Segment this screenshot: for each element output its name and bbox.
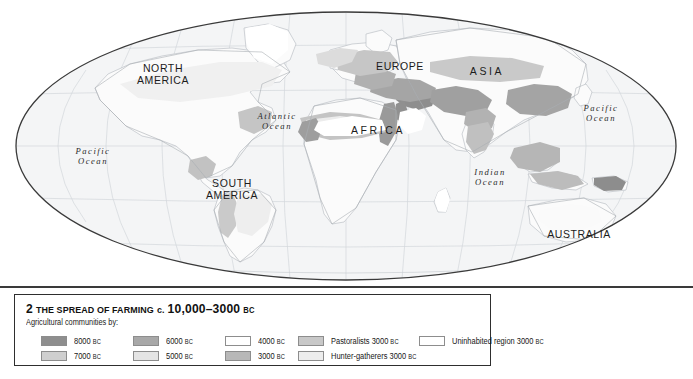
legend-hunter-gatherers[interactable]: Hunter-gatherers 3000 BC	[298, 350, 426, 361]
legend-title-text: THE SPREAD OF FARMING	[36, 304, 154, 315]
legend-label-7000bc: 7000 BC	[74, 351, 101, 361]
legend-label-uninhabited: Uninhabited region 3000 BC	[452, 336, 544, 346]
legend-subtitle: Agricultural communities by:	[26, 318, 118, 327]
legend-label-6000bc: 6000 BC	[166, 336, 193, 346]
legend-6000bc[interactable]: 6000 BC	[133, 335, 196, 346]
legend-3000bc[interactable]: 3000 BC	[225, 350, 288, 361]
legend-label-4000bc: 4000 BC	[258, 336, 285, 346]
legend-label-8000bc: 8000 BC	[74, 336, 101, 346]
legend-swatch-5000bc	[133, 351, 159, 361]
legend-label-5000bc: 5000 BC	[166, 351, 193, 361]
legend-label-3000bc: 3000 BC	[258, 351, 285, 361]
land-new-zealand	[634, 228, 650, 246]
legend-swatch-uninhabited	[419, 336, 445, 346]
legend-label-hunter-gatherers: Hunter-gatherers 3000 BC	[331, 351, 417, 361]
legend-label-pastoralists: Pastoralists 3000 BC	[331, 336, 399, 346]
map-page: NORTH AMERICA SOUTH AMERICA EUROPE AFRIC…	[0, 0, 693, 379]
legend-swatch-7000bc	[41, 351, 67, 361]
legend-swatch-8000bc	[41, 336, 67, 346]
map-graphic	[0, 0, 693, 290]
map-bottom-rule	[0, 286, 693, 288]
legend-7000bc[interactable]: 7000 BC	[41, 350, 104, 361]
legend-swatch-pastoralists	[298, 336, 324, 346]
legend-uninhabited[interactable]: Uninhabited region 3000 BC	[419, 335, 554, 346]
legend-title-range: 10,000–3000	[168, 301, 241, 316]
legend-swatch-hunter-gatherers	[298, 351, 324, 361]
legend-title: 2 THE SPREAD OF FARMING c. 10,000–3000 B…	[26, 301, 255, 316]
legend-pastoralists[interactable]: Pastoralists 3000 BC	[298, 335, 406, 346]
legend-8000bc[interactable]: 8000 BC	[41, 335, 104, 346]
legend-5000bc[interactable]: 5000 BC	[133, 350, 196, 361]
legend-swatch-4000bc	[225, 336, 251, 346]
legend-swatch-3000bc	[225, 351, 251, 361]
world-map	[0, 0, 693, 290]
legend-title-circa: c.	[157, 304, 165, 315]
legend-swatch-6000bc	[133, 336, 159, 346]
legend-title-era: BC	[243, 306, 254, 315]
legend-4000bc[interactable]: 4000 BC	[225, 335, 288, 346]
map-legend: 2 THE SPREAD OF FARMING c. 10,000–3000 B…	[14, 294, 491, 366]
